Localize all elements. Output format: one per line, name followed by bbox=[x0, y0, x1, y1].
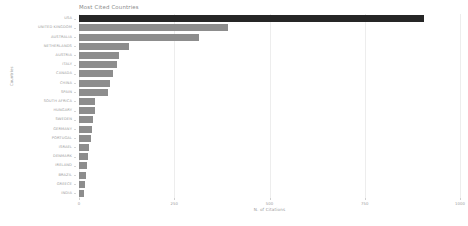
y-tick-label: PORTUGAL bbox=[52, 135, 72, 142]
bar-row bbox=[79, 172, 460, 179]
y-tick-label: GERMANY bbox=[53, 126, 72, 133]
bar[interactable] bbox=[79, 144, 89, 151]
bar-row bbox=[79, 98, 460, 105]
y-tick-label: USA bbox=[64, 15, 72, 22]
y-tick-label: HUNGARY bbox=[53, 107, 72, 114]
bar[interactable] bbox=[79, 24, 228, 31]
bar-row bbox=[79, 135, 460, 142]
bar-row bbox=[79, 15, 460, 22]
bar[interactable] bbox=[79, 172, 86, 179]
bar[interactable] bbox=[79, 135, 91, 142]
bar-row bbox=[79, 61, 460, 68]
bar-row bbox=[79, 153, 460, 160]
bar[interactable] bbox=[79, 15, 424, 22]
plot-area bbox=[79, 14, 460, 198]
bar[interactable] bbox=[79, 52, 119, 59]
bar[interactable] bbox=[79, 98, 95, 105]
x-axis: N. of Citations 02505007501000 bbox=[79, 198, 460, 218]
y-tick-mark bbox=[74, 129, 76, 130]
y-tick-mark bbox=[74, 83, 76, 84]
x-tick-label: 500 bbox=[266, 201, 274, 206]
x-tick-mark bbox=[174, 198, 175, 200]
bar[interactable] bbox=[79, 80, 110, 87]
y-tick-mark bbox=[74, 37, 76, 38]
gridline bbox=[460, 14, 461, 198]
x-tick-label: 750 bbox=[361, 201, 369, 206]
y-tick-label: CHINA bbox=[60, 80, 72, 87]
y-tick-mark bbox=[74, 138, 76, 139]
y-tick-label: SOUTH AFRICA bbox=[44, 98, 72, 105]
bar[interactable] bbox=[79, 89, 108, 96]
y-tick-label: UNITED KINGDOM bbox=[38, 24, 72, 31]
gridline bbox=[270, 14, 271, 198]
bar[interactable] bbox=[79, 43, 129, 50]
bar-row bbox=[79, 34, 460, 41]
y-tick-label: AUSTRALIA bbox=[51, 34, 72, 41]
bar[interactable] bbox=[79, 107, 95, 114]
bar[interactable] bbox=[79, 190, 84, 197]
bar[interactable] bbox=[79, 126, 92, 133]
gridline bbox=[174, 14, 175, 198]
y-tick-mark bbox=[74, 157, 76, 158]
y-tick-label: NETHERLANDS bbox=[44, 43, 72, 50]
x-tick-label: 0 bbox=[78, 201, 81, 206]
y-tick-label: ISRAEL bbox=[59, 144, 72, 151]
x-tick-label: 1000 bbox=[455, 201, 465, 206]
bar-row bbox=[79, 162, 460, 169]
bar[interactable] bbox=[79, 34, 199, 41]
y-tick-label: ITALY bbox=[62, 61, 72, 68]
y-axis-tick-labels: USAUNITED KINGDOMAUSTRALIANETHERLANDSAUS… bbox=[0, 14, 76, 198]
y-tick-mark bbox=[74, 46, 76, 47]
x-tick-label: 250 bbox=[170, 201, 178, 206]
gridline bbox=[365, 14, 366, 198]
y-tick-mark bbox=[74, 19, 76, 20]
y-tick-mark bbox=[74, 111, 76, 112]
y-tick-label: BRAZIL bbox=[58, 172, 72, 179]
x-tick-mark bbox=[365, 198, 366, 200]
bar-row bbox=[79, 144, 460, 151]
bar-row bbox=[79, 89, 460, 96]
x-tick-mark bbox=[79, 198, 80, 200]
y-tick-mark bbox=[74, 55, 76, 56]
y-tick-mark bbox=[74, 147, 76, 148]
bar-row bbox=[79, 181, 460, 188]
bar-row bbox=[79, 126, 460, 133]
y-tick-mark bbox=[74, 120, 76, 121]
x-tick-mark bbox=[460, 198, 461, 200]
y-tick-label: AUSTRIA bbox=[56, 52, 72, 59]
y-tick-mark bbox=[74, 193, 76, 194]
bar-row bbox=[79, 52, 460, 59]
bar-row bbox=[79, 70, 460, 77]
bar-row bbox=[79, 80, 460, 87]
chart-title: Most Cited Countries bbox=[79, 4, 279, 10]
bar-row bbox=[79, 116, 460, 123]
y-tick-mark bbox=[74, 101, 76, 102]
bar-row bbox=[79, 107, 460, 114]
y-tick-mark bbox=[74, 65, 76, 66]
bar[interactable] bbox=[79, 70, 113, 77]
y-tick-label: SWEDEN bbox=[55, 116, 72, 123]
y-tick-mark bbox=[74, 166, 76, 167]
y-tick-label: INDIA bbox=[61, 190, 72, 197]
x-tick-mark bbox=[270, 198, 271, 200]
bar[interactable] bbox=[79, 61, 117, 68]
gridline bbox=[79, 14, 80, 198]
y-tick-label: GREECE bbox=[57, 181, 72, 188]
y-tick-label: CANADA bbox=[56, 70, 72, 77]
y-tick-label: SPAIN bbox=[61, 89, 72, 96]
bar[interactable] bbox=[79, 116, 93, 123]
y-tick-label: IRELAND bbox=[55, 162, 72, 169]
chart-figure: Most Cited Countries Countries USAUNITED… bbox=[0, 0, 468, 226]
bar-row bbox=[79, 43, 460, 50]
y-tick-mark bbox=[74, 184, 76, 185]
y-tick-mark bbox=[74, 28, 76, 29]
y-tick-mark bbox=[74, 175, 76, 176]
bar[interactable] bbox=[79, 181, 85, 188]
bar-row bbox=[79, 24, 460, 31]
bar[interactable] bbox=[79, 162, 87, 169]
y-tick-mark bbox=[74, 74, 76, 75]
y-tick-label: DENMARK bbox=[53, 153, 72, 160]
y-tick-mark bbox=[74, 92, 76, 93]
bar[interactable] bbox=[79, 153, 88, 160]
bar-row bbox=[79, 190, 460, 197]
